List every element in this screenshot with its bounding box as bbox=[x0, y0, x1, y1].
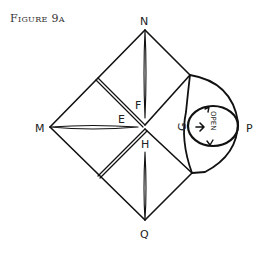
crease-n-center bbox=[144, 30, 146, 118]
label-q: Q bbox=[140, 228, 149, 241]
diamond-edge-q-right bbox=[145, 173, 192, 220]
open-tick-bottom bbox=[207, 140, 213, 145]
fold-diagram: N M P Q E F H G OPEN bbox=[0, 0, 262, 253]
label-m: M bbox=[35, 122, 45, 135]
crease-m-center bbox=[50, 126, 138, 130]
label-g: G bbox=[176, 122, 189, 131]
arrow-icon bbox=[196, 123, 204, 131]
label-p: P bbox=[246, 122, 253, 135]
diamond-edge-n-right bbox=[145, 30, 190, 75]
fold-sw-inner bbox=[98, 129, 147, 178]
label-h: H bbox=[141, 138, 149, 151]
crease-q-center bbox=[144, 152, 146, 220]
diamond-edge-m-q bbox=[50, 127, 145, 220]
label-n: N bbox=[140, 15, 148, 28]
fold-ne-inner bbox=[145, 75, 190, 125]
label-f: F bbox=[135, 99, 141, 112]
diamond-edge-n-m bbox=[50, 30, 145, 127]
label-open: OPEN bbox=[209, 111, 217, 130]
label-e: E bbox=[118, 113, 125, 126]
